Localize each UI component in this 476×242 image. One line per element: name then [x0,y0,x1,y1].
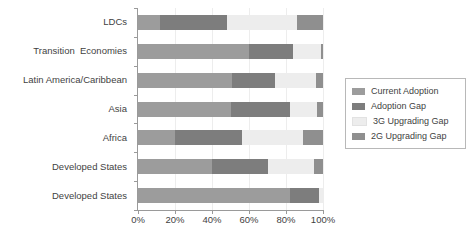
category-axis: LDCsTransition EconomiesLatin America/Ca… [0,8,133,210]
x-axis-tick-label: 40% [202,214,221,225]
legend-swatch-icon [352,88,365,95]
bar-segment [321,44,323,59]
category-label: Transition Economies [33,44,127,58]
legend-entry[interactable]: 3G Upgrading Gap [352,114,460,128]
bar-segment [138,130,175,145]
bar-segment [231,102,290,117]
chart-legend: Current AdoptionAdoption Gap3G Upgrading… [345,78,466,149]
category-label: Developed States [52,160,127,174]
category-label: Asia [109,102,127,116]
category-label: Developed States [52,189,127,203]
legend-swatch-icon [352,133,365,140]
bar-segment [138,73,232,88]
stacked-bar-chart: LDCsTransition EconomiesLatin America/Ca… [0,0,476,242]
x-axis-line [137,210,324,211]
bar-segment [290,188,320,203]
y-axis-tick [134,152,138,153]
bar-segment [138,44,249,59]
bar-row [138,130,323,145]
bar-segment [275,73,316,88]
bar-segment [268,159,314,174]
bar-row [138,73,323,88]
bar-row [138,188,323,203]
bar-segment [138,188,290,203]
bar-segment [138,15,160,30]
bar-segment [303,130,323,145]
bar-segment [138,159,212,174]
y-axis-tick [134,95,138,96]
legend-entry[interactable]: 2G Upgrading Gap [352,129,460,143]
bar-segment [316,73,323,88]
bar-segment [249,44,293,59]
bar-segment [319,188,323,203]
bar-segment [297,15,323,30]
legend-label: Current Adoption [371,86,439,97]
category-label: LDCs [103,15,127,29]
bar-segment [160,15,227,30]
bar-segment [242,130,303,145]
bar-segment [138,102,231,117]
legend-label: 2G Upgrading Gap [371,131,447,142]
category-label: Latin America/Caribbean [23,73,127,87]
bar-row [138,44,323,59]
x-axis-tick-label: 0% [131,214,145,225]
x-axis-tick-label: 60% [239,214,258,225]
x-axis-tick-label: 20% [165,214,184,225]
bar-segment [175,130,242,145]
bar-segment [293,44,321,59]
plot-area [138,8,323,210]
bar-row [138,102,323,117]
legend-entry[interactable]: Current Adoption [352,84,460,98]
y-axis-tick [134,210,138,211]
x-axis-tick-label: 100% [311,214,335,225]
bar-segment [212,159,268,174]
bar-segment [317,102,323,117]
legend-label: Adoption Gap [371,101,426,112]
legend-entry[interactable]: Adoption Gap [352,99,460,113]
legend-swatch-icon [352,103,365,110]
x-axis-tick-label: 80% [276,214,295,225]
bar-row [138,15,323,30]
bar-segment [227,15,297,30]
x-axis-tick-labels: 0%20%40%60%80%100% [138,214,338,228]
y-axis-tick [134,37,138,38]
legend-swatch-icon [352,117,367,126]
bar-segment [232,73,275,88]
category-label: Africa [103,131,127,145]
bar-row [138,159,323,174]
y-axis-tick [134,181,138,182]
bar-segment [290,102,318,117]
bar-segment [314,159,323,174]
legend-label: 3G Upgrading Gap [373,116,449,127]
y-axis-tick [134,66,138,67]
y-axis-tick [134,123,138,124]
y-axis-tick [134,8,138,9]
gridline [323,8,324,210]
